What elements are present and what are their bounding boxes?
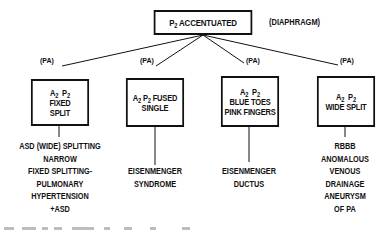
diagram-canvas: P2 ACCENTUATED (DIAPHRAGM) (PA) (PA) (PA… [0, 0, 392, 231]
root-side-note: (DIAPHRAGM) [269, 17, 320, 27]
connector-root-to-b2 [156, 35, 203, 66]
description-fixed-split: ASD (WIDE) SPLITTING NARROW FIXED SPLITT… [10, 140, 110, 215]
node-text-line: FIXED [49, 98, 70, 108]
node-fused-single: A2 P2 FUSED SINGLE [126, 78, 184, 127]
node-text-line: PINK FINGERS [224, 107, 275, 117]
connector-root-to-b1 [62, 35, 203, 66]
root-label-rest: ACCENTUATED [179, 18, 237, 28]
branch-label-2: (PA) [140, 56, 154, 66]
branch-label-4: (PA) [340, 56, 354, 66]
node-text-line: SPLIT [50, 108, 70, 118]
description-blue-toes: EISENMENGER DUCTUS [215, 165, 284, 190]
node-fixed-split: A2 P2 FIXED SPLIT [31, 79, 89, 126]
node-text-line: WIDE SPLIT [325, 102, 366, 112]
description-fused-single: EISENMENGER SYNDROME [121, 165, 190, 190]
a2-p2-label: A2 P2 [240, 87, 260, 97]
branch-label-3: (PA) [246, 56, 260, 66]
a2-p2-label: A2 P2 [336, 92, 356, 102]
connector-root-to-b4 [203, 35, 338, 65]
node-blue-toes-pink-fingers: A2 P2 BLUE TOES PINK FINGERS [221, 76, 279, 127]
a2-p2-label: A2 P2 FUSED [133, 93, 177, 103]
a2-p2-label: A2 P2 [50, 88, 70, 98]
root-node-p2-accentuated: P2 ACCENTUATED [154, 10, 253, 35]
description-wide-split: RBBB ANOMALOUS VENOUS DRAINAGE ANEURYSM … [315, 140, 375, 215]
node-wide-split: A2 P2 WIDE SPLIT [317, 76, 375, 127]
node-text-line: BLUE TOES [229, 97, 270, 107]
cropped-caption-fragment [0, 227, 392, 231]
root-label-sub: 2 [174, 22, 177, 29]
node-text-line: SINGLE [142, 103, 169, 113]
branch-label-1: (PA) [40, 56, 54, 66]
